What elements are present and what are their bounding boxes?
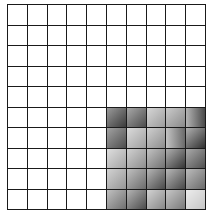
shaded-grid-cell xyxy=(147,149,167,170)
grid-cell xyxy=(166,87,186,108)
shaded-grid-cell xyxy=(107,149,127,170)
grid-cell xyxy=(28,46,48,67)
grid-cell xyxy=(147,87,167,108)
grid-cell xyxy=(186,67,206,88)
grid-cell xyxy=(107,67,127,88)
grid-cell xyxy=(67,169,87,190)
grid-cell xyxy=(8,190,28,211)
shaded-grid-cell xyxy=(186,108,206,129)
grid-cell xyxy=(87,149,107,170)
grid-cell xyxy=(28,5,48,26)
grid-cell xyxy=(8,108,28,129)
grid-cell xyxy=(67,67,87,88)
grid-cell xyxy=(87,5,107,26)
shaded-grid-cell xyxy=(127,169,147,190)
grid-cell xyxy=(48,87,68,108)
grid-cell xyxy=(8,26,28,47)
shaded-grid-cell xyxy=(107,108,127,129)
grid-cell xyxy=(48,169,68,190)
grid-cell xyxy=(48,108,68,129)
grid-cell xyxy=(8,128,28,149)
grid-cell xyxy=(28,67,48,88)
grid-cell xyxy=(67,5,87,26)
grid-cell xyxy=(166,26,186,47)
grid-cell xyxy=(8,149,28,170)
shaded-grid-cell xyxy=(107,169,127,190)
grid-cell xyxy=(48,46,68,67)
grid-cell xyxy=(147,67,167,88)
shaded-grid-cell xyxy=(107,128,127,149)
grid-cell xyxy=(87,26,107,47)
grid-cell xyxy=(186,5,206,26)
shaded-grid-cell xyxy=(166,190,186,211)
grid-cell xyxy=(67,108,87,129)
shaded-grid-cell xyxy=(186,128,206,149)
grid-cell xyxy=(8,5,28,26)
grid-cell xyxy=(67,46,87,67)
grid-cell xyxy=(28,26,48,47)
grid-cell xyxy=(127,87,147,108)
grid-cell xyxy=(186,46,206,67)
grid-cell xyxy=(48,5,68,26)
grid-cell xyxy=(8,46,28,67)
grid-cell xyxy=(67,87,87,108)
grid-cell xyxy=(127,26,147,47)
shaded-grid-cell xyxy=(127,149,147,170)
grid-cell xyxy=(87,87,107,108)
shaded-grid-cell xyxy=(147,169,167,190)
grid-cell xyxy=(28,128,48,149)
grid-cell xyxy=(28,87,48,108)
shaded-grid-cell xyxy=(127,108,147,129)
grid-cell xyxy=(48,26,68,47)
grid-cell xyxy=(48,67,68,88)
shaded-grid-cell xyxy=(186,169,206,190)
shaded-grid-cell xyxy=(107,190,127,211)
grid-cell xyxy=(147,46,167,67)
shaded-grid-cell xyxy=(147,128,167,149)
shaded-grid-cell xyxy=(147,108,167,129)
grid-cell xyxy=(127,67,147,88)
grid-cell xyxy=(8,87,28,108)
shaded-grid-cell xyxy=(147,190,167,211)
grid-cell xyxy=(166,67,186,88)
grid-10x10 xyxy=(7,4,206,210)
grid-cell xyxy=(67,26,87,47)
grid-cell xyxy=(147,5,167,26)
grid-cell xyxy=(48,128,68,149)
shaded-grid-cell xyxy=(186,149,206,170)
grid-cell xyxy=(107,87,127,108)
grid-cell xyxy=(28,169,48,190)
grid-cell xyxy=(87,108,107,129)
shaded-grid-cell xyxy=(127,190,147,211)
grid-cell xyxy=(147,26,167,47)
grid-cell xyxy=(8,169,28,190)
grid-cell xyxy=(166,5,186,26)
grid-cell xyxy=(87,190,107,211)
grid-cell xyxy=(67,190,87,211)
grid-cell xyxy=(186,26,206,47)
grid-cell xyxy=(127,5,147,26)
grid-cell xyxy=(8,67,28,88)
grid-cell xyxy=(28,149,48,170)
grid-cell xyxy=(28,190,48,211)
grid-cell xyxy=(87,169,107,190)
shaded-grid-cell xyxy=(127,128,147,149)
grid-cell xyxy=(48,190,68,211)
grid-cell xyxy=(87,46,107,67)
shaded-grid-cell xyxy=(166,169,186,190)
grid-cell xyxy=(28,108,48,129)
grid-cell xyxy=(186,87,206,108)
shaded-grid-cell xyxy=(186,190,206,211)
shaded-grid-cell xyxy=(166,108,186,129)
grid-cell xyxy=(67,128,87,149)
grid-cell xyxy=(107,5,127,26)
grid-cell xyxy=(67,149,87,170)
grid-cell xyxy=(166,46,186,67)
grid-cell xyxy=(107,46,127,67)
grid-cell xyxy=(87,67,107,88)
grid-cell xyxy=(127,46,147,67)
shaded-grid-cell xyxy=(166,149,186,170)
shaded-grid-cell xyxy=(166,128,186,149)
grid-cell xyxy=(87,128,107,149)
grid-cell xyxy=(48,149,68,170)
